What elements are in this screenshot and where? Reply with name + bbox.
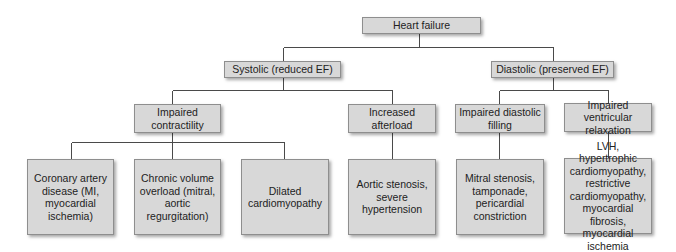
node-impaired-ventricular-relaxation: Impaired ventricular relaxation <box>564 103 652 132</box>
node-label-line: Impaired <box>157 106 198 119</box>
node-label-line: Dilated <box>269 185 302 198</box>
node-label-line: filling <box>488 119 512 132</box>
node-label-line: relaxation <box>585 124 631 137</box>
node-label-line: Impaired ventricular <box>568 99 648 124</box>
node-systolic: Systolic (reduced EF) <box>224 61 341 78</box>
node-mitral-stenosis: Mitral stenosis, tamponade, pericardial … <box>456 159 544 235</box>
node-heart-failure: Heart failure <box>362 17 481 34</box>
node-coronary-artery-disease: Coronary artery disease (MI, myocardial … <box>27 159 114 235</box>
node-label-line: constriction <box>473 210 526 223</box>
node-chronic-volume-overload: Chronic volume overload (mitral, aortic … <box>134 159 221 235</box>
node-label-line: Aortic stenosis, <box>356 178 427 191</box>
node-aortic-stenosis: Aortic stenosis, severe hypertension <box>348 159 436 235</box>
node-label-line: aortic regurgitation) <box>138 197 217 222</box>
node-label-line: myocardial fibrosis, <box>568 202 648 227</box>
node-label-line: cardiomyopathy <box>248 197 322 210</box>
node-impaired-contractility: Impaired contractility <box>134 104 221 133</box>
node-label-line: severe hypertension <box>352 191 432 216</box>
node-label-line: Coronary artery <box>34 172 107 185</box>
node-label: Heart failure <box>393 19 450 32</box>
node-label-line: disease (MI, <box>42 185 99 198</box>
node-label: Systolic (reduced EF) <box>232 63 332 76</box>
node-label-line: restrictive <box>586 177 631 190</box>
node-impaired-diastolic-filling: Impaired diastolic filling <box>455 104 545 133</box>
node-dilated-cardiomyopathy: Dilated cardiomyopathy <box>241 159 329 235</box>
node-label-line: overload (mitral, <box>140 185 215 198</box>
node-label-line: Chronic volume <box>141 172 214 185</box>
node-label-line: tamponade, <box>472 185 527 198</box>
node-label-line: Increased <box>369 106 415 119</box>
node-label-line: contractility <box>151 119 204 132</box>
node-label-line: LVH, hypertrophic <box>568 140 648 165</box>
node-label-line: myocardial ischemia) <box>31 197 110 222</box>
node-increased-afterload: Increased afterload <box>348 104 436 133</box>
node-label-line: cardiomyopathy, <box>570 190 646 203</box>
node-diastolic: Diastolic (preserved EF) <box>491 61 614 78</box>
node-label-line: Impaired diastolic <box>459 106 541 119</box>
node-label-line: cardiomyopathy, <box>570 165 646 178</box>
node-lvh: LVH, hypertrophic cardiomyopathy, restri… <box>564 158 652 234</box>
node-label-line: pericardial <box>476 197 524 210</box>
node-label-line: myocardial ischemia <box>568 227 648 252</box>
node-label-line: Mitral stenosis, <box>465 172 535 185</box>
node-label: Diastolic (preserved EF) <box>496 63 609 76</box>
node-label-line: afterload <box>372 119 413 132</box>
